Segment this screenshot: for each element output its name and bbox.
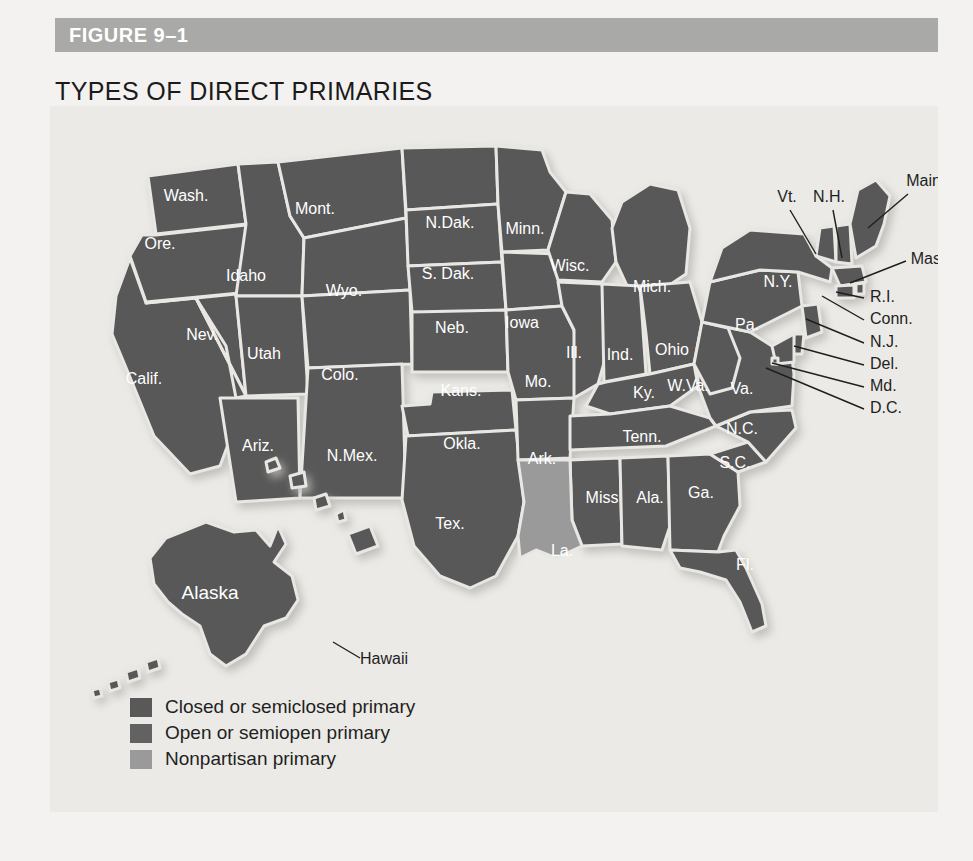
legend-item-closed: Closed or semiclosed primary	[130, 694, 415, 720]
state-label-pa: Pa.	[735, 316, 759, 333]
state-label-wyo: Wyo.	[326, 282, 362, 299]
state-hi-3	[314, 494, 330, 510]
state-me	[850, 180, 890, 258]
state-label-kans: Kans.	[441, 382, 482, 399]
state-hi-4	[336, 510, 346, 522]
state-in	[602, 284, 646, 382]
state-label-hawaii: Hawaii	[360, 650, 408, 667]
state-label-miss: Miss	[586, 489, 619, 506]
state-label-la: La.	[551, 542, 573, 559]
state-label-alaska: Alaska	[181, 582, 238, 603]
state-vt	[816, 226, 836, 262]
state-label-nc: N.C.	[726, 420, 758, 437]
state-ct	[836, 285, 854, 298]
state-oh	[640, 282, 702, 374]
state-co	[302, 290, 412, 368]
state-label-ala: Ala.	[636, 489, 664, 506]
state-label-neb: Neb.	[435, 319, 469, 336]
state-ak-aleutian-2	[126, 668, 140, 682]
state-label-ind: Ind.	[607, 346, 634, 363]
state-ri	[856, 283, 864, 294]
map-legend: Closed or semiclosed primary Open or sem…	[130, 694, 415, 772]
state-label-calif: Calif.	[126, 370, 162, 387]
figure-number: FIGURE 9–1	[55, 24, 188, 47]
state-label-ariz: Ariz.	[242, 437, 274, 454]
state-label-nev: Nev.	[186, 326, 218, 343]
state-label-tenn: Tenn.	[622, 428, 661, 445]
state-label-nh: N.H.	[813, 188, 845, 205]
state-tx	[402, 430, 524, 588]
state-label-minn: Minn.	[505, 220, 544, 237]
leader-line-hawaii	[333, 642, 360, 658]
legend-swatch-closed	[130, 698, 152, 717]
legend-item-open: Open or semiopen primary	[130, 720, 415, 746]
leader-line-del	[794, 346, 864, 365]
state-label-mass: Mass.	[911, 250, 938, 267]
state-nd	[402, 146, 498, 210]
state-label-utah: Utah	[247, 345, 281, 362]
state-label-iowa: Iowa	[505, 314, 539, 331]
state-hi-5	[348, 526, 378, 554]
state-label-del: Del.	[870, 355, 898, 372]
state-ak-aleutian-4	[92, 688, 102, 698]
state-label-conn: Conn.	[870, 310, 913, 327]
figure-title: TYPES OF DIRECT PRIMARIES	[55, 77, 433, 106]
state-ak-aleutian-1	[146, 658, 160, 672]
state-label-vt: Vt.	[777, 188, 797, 205]
state-label-sc: S.C.	[719, 454, 750, 471]
state-label-mo: Mo.	[525, 373, 552, 390]
state-mi	[612, 184, 690, 290]
leader-line-conn	[822, 296, 864, 320]
legend-label-nonpartisan: Nonpartisan primary	[165, 748, 336, 770]
state-label-tex: Tex.	[435, 515, 464, 532]
state-label-idaho: Idaho	[226, 267, 266, 284]
state-ak-aleutian-3	[108, 679, 120, 691]
legend-label-open: Open or semiopen primary	[165, 722, 390, 744]
state-label-ore: Ore.	[144, 235, 175, 252]
state-label-wva: W.Va.	[667, 377, 709, 394]
state-hi-1	[266, 458, 280, 472]
state-label-ri: R.I.	[870, 288, 895, 305]
map-panel: Wash.Mont.N.Dak.Minn.Ore.IdahoS. Dak.Wis…	[50, 106, 938, 812]
state-label-wash: Wash.	[164, 187, 209, 204]
state-label-nmex: N.Mex.	[327, 447, 378, 464]
legend-swatch-open	[130, 724, 152, 743]
state-label-ohio: Ohio	[655, 341, 689, 358]
state-label-mont: Mont.	[295, 200, 335, 217]
state-label-wisc: Wisc.	[550, 257, 589, 274]
state-label-md: Md.	[870, 377, 897, 394]
state-nm	[300, 364, 406, 498]
state-label-colo: Colo.	[321, 366, 358, 383]
state-label-dc: D.C.	[870, 399, 902, 416]
state-label-ky: Ky.	[633, 384, 655, 401]
state-label-ill: Ill.	[566, 344, 582, 361]
figure-number-bar: FIGURE 9–1	[55, 18, 938, 52]
legend-label-closed: Closed or semiclosed primary	[165, 696, 415, 718]
state-label-maine: Maine	[906, 172, 938, 189]
state-label-ark: Ark.	[528, 450, 556, 467]
state-label-okla: Okla.	[443, 435, 480, 452]
state-label-mich: Mich.	[633, 278, 671, 295]
state-label-ndak: N.Dak.	[426, 214, 475, 231]
state-label-fl: Fl.	[736, 556, 754, 573]
state-label-va: Va.	[731, 380, 754, 397]
state-hi-2	[290, 472, 306, 488]
state-label-ga: Ga.	[688, 484, 714, 501]
legend-item-nonpartisan: Nonpartisan primary	[130, 746, 415, 772]
legend-swatch-nonpartisan	[130, 750, 152, 769]
state-label-nj: N.J.	[870, 333, 898, 350]
state-label-ny: N.Y.	[763, 273, 792, 290]
state-label-sdak: S. Dak.	[422, 265, 474, 282]
